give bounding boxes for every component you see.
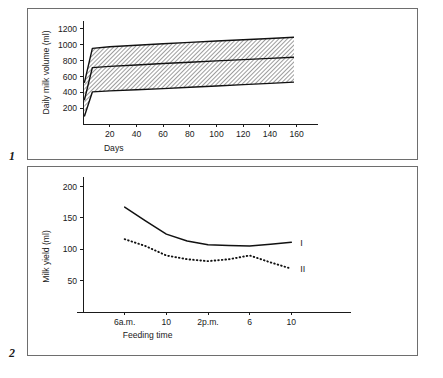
y-tick-label: 200: [63, 103, 78, 113]
y-tick-label: 100: [63, 244, 78, 254]
x-tick-label: 6: [247, 317, 252, 327]
panel-number-2: 2: [9, 347, 15, 359]
x-tick-label: 80: [185, 129, 195, 139]
x-axis-title: Feeding time: [123, 330, 173, 340]
series-label-i: I: [300, 238, 303, 248]
y-tick-label: 800: [63, 56, 78, 66]
x-axis-ticks: 6a.m.102p.m.610: [114, 312, 296, 327]
x-tick-label: 10: [162, 317, 172, 327]
x-tick-label: 6a.m.: [114, 317, 135, 327]
x-tick-label: 10: [287, 317, 297, 327]
x-tick-label: 60: [158, 129, 168, 139]
x-tick-label: 2p.m.: [197, 317, 219, 327]
series-label-ii: II: [300, 264, 305, 274]
x-tick-label: 160: [289, 129, 304, 139]
y-tick-label: 150: [63, 213, 78, 223]
x-tick-label: 120: [236, 129, 251, 139]
y-tick-label: 400: [63, 87, 78, 97]
y-axis-ticks: 20040060080010001200: [58, 24, 83, 113]
x-tick-label: 20: [105, 129, 115, 139]
y-axis-ticks: 50100150200: [63, 182, 83, 286]
daily-milk-volume-chart: 20040060080010001200 2040608010012014016…: [28, 9, 417, 159]
y-tick-label: 1000: [58, 40, 77, 50]
y-tick-label: 1200: [58, 24, 77, 34]
figure-panel-1: 20040060080010001200 2040608010012014016…: [27, 8, 418, 160]
panel-number-1: 1: [9, 150, 15, 162]
y-axis-title: Milk yield (ml): [41, 230, 51, 283]
y-tick-label: 50: [67, 276, 77, 286]
series-line-ii: [125, 239, 292, 269]
y-axis-title: Daily milk volume (ml): [41, 30, 51, 114]
figure-root: 20040060080010001200 2040608010012014016…: [0, 0, 443, 378]
x-tick-label: 100: [209, 129, 224, 139]
y-tick-label: 600: [63, 72, 78, 82]
milk-yield-chart: I II 50100150200 6a.m.102p.m.610 Milk yi…: [28, 167, 417, 355]
y-tick-label: 200: [63, 182, 78, 192]
range-band-fill: [84, 37, 294, 116]
figure-panel-2: I II 50100150200 6a.m.102p.m.610 Milk yi…: [27, 166, 418, 356]
series-line-i: [125, 207, 292, 246]
x-tick-label: 40: [132, 129, 142, 139]
x-axis-title: Days: [104, 143, 124, 153]
x-axis-ticks: 20406080100120140160: [105, 124, 304, 139]
x-tick-label: 140: [263, 129, 278, 139]
